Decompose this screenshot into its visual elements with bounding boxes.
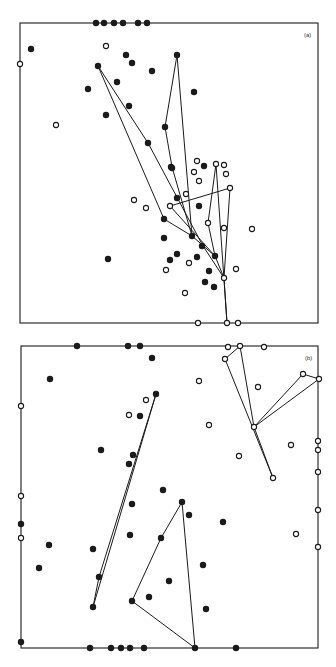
open-point [227,185,232,190]
panel-frame [20,23,318,323]
open-point [293,531,298,536]
filled-point [47,376,53,382]
filled-point [144,20,150,26]
open-point [222,356,227,361]
connecting-line [132,502,195,648]
filled-point [141,645,147,651]
filled-point [108,645,114,651]
filled-point [161,216,167,222]
filled-point [123,52,129,58]
filled-point [174,195,180,201]
open-point [143,397,148,402]
open-point [237,343,242,348]
filled-point [146,594,152,600]
filled-point [98,447,104,453]
filled-point [126,461,132,467]
filled-point [96,574,102,580]
panel-b [18,343,322,651]
filled-point [127,532,133,538]
open-point [236,453,241,458]
open-point [315,447,320,452]
filled-point [93,20,99,26]
filled-point [120,20,126,26]
filled-point [95,63,101,69]
open-point [255,384,260,389]
filled-point [46,542,52,548]
connecting-line [216,164,227,323]
open-point [17,61,22,66]
panel-label-b: (b) [305,355,312,361]
filled-point [220,519,226,525]
open-point [233,266,238,271]
panel-a [17,20,318,326]
connecting-line [182,502,195,648]
connecting-line [208,164,216,256]
open-point [182,290,187,295]
open-point [196,378,201,383]
filled-point [90,604,96,610]
open-point [205,220,210,225]
open-point [315,438,320,443]
open-point [18,535,23,540]
filled-point [28,46,34,52]
open-point [194,158,199,163]
open-point [18,493,23,498]
filled-point [114,79,120,85]
filled-point [149,68,155,74]
filled-point [118,645,124,651]
open-point [186,260,191,265]
filled-point [87,645,93,651]
open-point [103,43,108,48]
filled-point [129,598,135,604]
open-point [225,344,230,349]
open-point [143,205,148,210]
filled-point [202,279,208,285]
open-point [195,320,200,325]
connecting-line [225,346,273,478]
filled-point [192,645,198,651]
open-point [191,169,196,174]
figure-canvas [0,0,336,667]
open-point [126,412,131,417]
connecting-line [93,394,156,607]
filled-point [85,86,91,92]
filled-point [18,639,24,645]
filled-point [18,521,24,527]
filled-point [167,257,173,263]
open-point [223,171,228,176]
panel-label-a: (a) [304,32,311,38]
filled-point [145,140,151,146]
open-point [288,442,293,447]
filled-point [186,512,192,518]
filled-point [174,52,180,58]
filled-point [153,391,159,397]
open-point [18,403,23,408]
filled-point [203,606,209,612]
open-point [315,507,320,512]
open-point [261,344,266,349]
open-point [206,422,211,427]
open-point [249,226,254,231]
filled-point [161,235,167,241]
connecting-line [170,206,215,256]
open-point [270,475,275,480]
panel-frame [21,346,318,648]
filled-point [90,546,96,552]
filled-point [105,256,111,262]
filled-point [135,20,141,26]
filled-point [111,20,117,26]
filled-point [129,501,135,507]
open-point [300,371,305,376]
open-point [131,197,136,202]
open-point [167,203,172,208]
filled-point [166,578,172,584]
filled-point [194,254,200,260]
filled-point [129,60,135,66]
open-point [196,178,201,183]
filled-point [174,251,180,257]
filled-point [168,164,174,170]
filled-point [233,645,239,651]
open-point [163,267,168,272]
filled-point [160,487,166,493]
filled-point [125,343,131,349]
